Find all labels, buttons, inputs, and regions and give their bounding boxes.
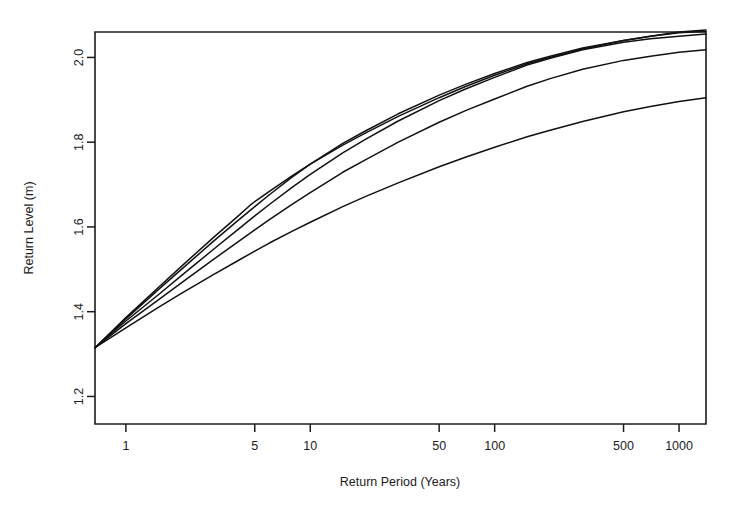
y-tick-label: 1.8 (72, 133, 86, 150)
y-tick-label: 1.4 (72, 303, 86, 320)
plot-background (95, 32, 706, 424)
x-tick-label: 50 (432, 439, 446, 453)
x-axis-ticks (126, 424, 679, 432)
plot-frame (95, 32, 706, 424)
x-tick-label: 10 (303, 439, 317, 453)
y-tick-label: 1.6 (72, 218, 86, 235)
x-tick-label: 1 (122, 439, 129, 453)
y-tick-label: 1.2 (72, 388, 86, 405)
y-tick-label: 2.0 (72, 49, 86, 66)
chart-canvas: 1.21.41.61.82.0 1510501005001000 Return … (0, 0, 745, 510)
x-tick-label: 100 (484, 439, 505, 453)
y-axis-ticks (87, 57, 95, 396)
x-tick-label: 500 (613, 439, 634, 453)
y-axis-tick-labels: 1.21.41.61.82.0 (72, 49, 86, 405)
x-axis-tick-labels: 1510501005001000 (122, 439, 693, 453)
x-tick-label: 1000 (665, 439, 693, 453)
x-axis-title: Return Period (Years) (340, 475, 460, 489)
y-axis-title: Return Level (m) (22, 181, 36, 274)
x-tick-label: 5 (251, 439, 258, 453)
return-level-plot-figure: 1.21.41.61.82.0 1510501005001000 Return … (0, 0, 745, 510)
